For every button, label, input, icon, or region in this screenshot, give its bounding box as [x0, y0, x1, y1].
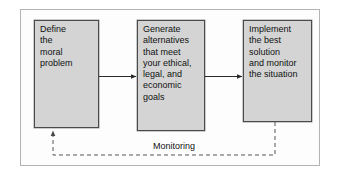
- process-flow-diagram: Define the moral problem Generate altern…: [0, 0, 341, 184]
- process-step-implement: Implement the best solution and monitor …: [243, 20, 312, 122]
- process-step-define: Define the moral problem: [34, 20, 99, 128]
- process-step-define-label: Define the moral problem: [40, 24, 95, 69]
- feedback-loop-label: Monitoring: [140, 141, 208, 152]
- process-step-generate-label: Generate alternatives that meet your eth…: [143, 24, 201, 103]
- process-step-generate: Generate alternatives that meet your eth…: [137, 20, 205, 131]
- process-step-implement-label: Implement the best solution and monitor …: [249, 24, 308, 80]
